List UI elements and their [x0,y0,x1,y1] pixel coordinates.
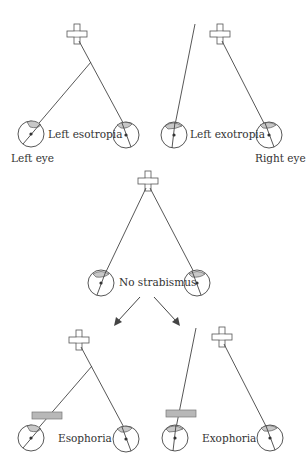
right-eye-visual-axis [81,347,128,435]
left-eye-icon [18,121,44,147]
fixation-target-icon [69,330,89,350]
left-eye-visual-axis [34,62,91,129]
left-eye-visual-axis [35,366,92,432]
right-eye-visual-axis [150,188,197,278]
panel-left-exotropia: Left exotropia Right eye [161,24,306,164]
right-eye-icon [257,425,283,451]
strabismus-diagram: Left esotropia Left eye Left exotropia R… [0,0,308,466]
panel-exophoria: Exophoria [162,327,283,451]
panel-no-strabismus: No strabismus [88,171,210,296]
left-eye-visual-axis [103,188,146,278]
arrow-to-esophoria [114,297,140,326]
right-eye-visual-axis [222,41,268,131]
fixation-target-icon [67,24,87,44]
occluder-cover [166,410,196,417]
right-eye-visual-axis [79,41,128,132]
label-exophoria: Exophoria [202,432,256,444]
left-eye-visual-axis [174,24,195,130]
label-left-esotropia: Left esotropia [48,128,122,140]
label-left-eye: Left eye [11,152,54,164]
arrow-to-exophoria [154,297,180,326]
fixation-target-icon [138,171,158,191]
label-esophoria: Esophoria [58,432,112,444]
label-no-strabismus: No strabismus [119,276,196,288]
fixation-target-icon [212,327,232,347]
right-eye-icon [113,426,139,452]
left-eye-icon [88,270,114,296]
left-eye-icon [161,122,187,148]
label-left-exotropia: Left exotropia [190,128,265,140]
right-eye-visual-axis [224,344,270,434]
panel-esophoria: Esophoria [18,330,139,452]
fixation-target-icon [210,24,230,44]
panel-left-esotropia: Left esotropia Left eye [11,24,139,164]
occluder-cover [32,412,62,419]
left-eye-icon [18,425,44,451]
left-eye-icon [162,425,188,451]
label-right-eye: Right eye [255,152,306,164]
